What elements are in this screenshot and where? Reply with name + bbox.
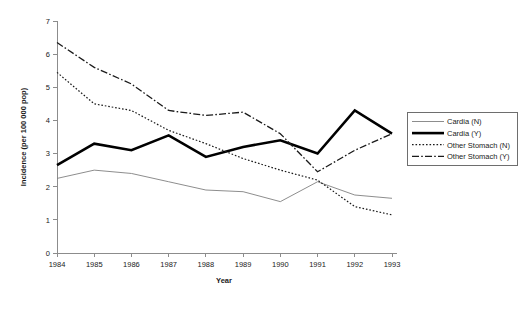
incidence-line-chart: 01234567 1984198519861987198819891990199… bbox=[0, 0, 522, 310]
x-tick-label: 1991 bbox=[309, 260, 326, 269]
y-axis: 01234567 bbox=[46, 17, 57, 258]
y-tick-label: 4 bbox=[46, 116, 50, 125]
x-tick-label: 1988 bbox=[198, 260, 215, 269]
x-tick-label: 1986 bbox=[123, 260, 140, 269]
y-tick-label: 3 bbox=[46, 149, 50, 158]
x-tick-label: 1989 bbox=[235, 260, 252, 269]
x-tick-label: 1993 bbox=[384, 260, 401, 269]
x-tick-label: 1987 bbox=[160, 260, 177, 269]
legend-label-3: Other Stomach (Y) bbox=[447, 152, 510, 161]
x-tick-label: 1990 bbox=[272, 260, 289, 269]
chart-legend: Cardia (N)Cardia (Y)Other Stomach (N)Oth… bbox=[407, 112, 517, 165]
series-line-1 bbox=[57, 110, 392, 165]
legend-label-0: Cardia (N) bbox=[447, 117, 482, 126]
data-series-group bbox=[57, 43, 392, 215]
chart-plot-area: 01234567 1984198519861987198819891990199… bbox=[0, 0, 522, 310]
series-line-2 bbox=[57, 72, 392, 215]
y-tick-label: 5 bbox=[46, 83, 50, 92]
legend-label-2: Other Stomach (N) bbox=[447, 141, 510, 150]
x-axis: 1984198519861987198819891990199119921993 bbox=[49, 253, 401, 269]
y-axis-title: Incidence (per 100 000 pop) bbox=[19, 87, 28, 186]
y-tick-label: 7 bbox=[46, 17, 50, 26]
y-tick-label: 6 bbox=[46, 50, 50, 59]
x-tick-label: 1984 bbox=[49, 260, 66, 269]
y-tick-label: 1 bbox=[46, 216, 50, 225]
y-tick-label: 0 bbox=[46, 249, 50, 258]
x-tick-label: 1985 bbox=[86, 260, 103, 269]
legend-label-1: Cardia (Y) bbox=[447, 129, 482, 138]
y-tick-label: 2 bbox=[46, 183, 50, 192]
x-tick-label: 1992 bbox=[346, 260, 363, 269]
x-axis-title: Year bbox=[216, 276, 232, 285]
